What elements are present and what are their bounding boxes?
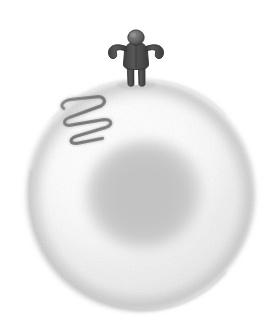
figure-head-highlight [130, 32, 136, 37]
cell-nucleus [84, 140, 208, 260]
nucleus-core [100, 154, 188, 240]
cell-illustration-svg [0, 0, 275, 329]
illustration-canvas: Human figure standing on a cell [0, 0, 275, 329]
figure-head [128, 30, 144, 45]
